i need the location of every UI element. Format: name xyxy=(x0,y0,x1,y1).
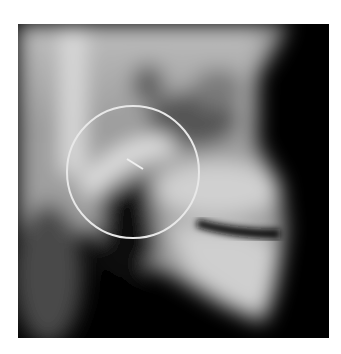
radiograph-render xyxy=(18,24,329,338)
radiograph-image xyxy=(18,24,329,338)
